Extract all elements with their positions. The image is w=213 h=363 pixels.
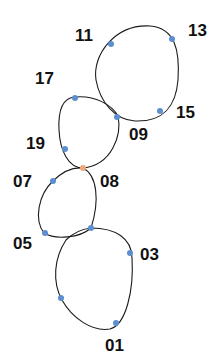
point-dot xyxy=(127,250,133,256)
point-dot xyxy=(113,320,119,326)
point-dot xyxy=(157,108,163,114)
point-dot xyxy=(42,230,48,236)
point-dot xyxy=(62,146,68,152)
point-label-01: 01 xyxy=(105,336,124,355)
point-dot xyxy=(169,36,175,42)
point-label-19: 19 xyxy=(26,134,45,153)
point-label-15: 15 xyxy=(176,103,195,122)
point-label-07: 07 xyxy=(13,172,32,191)
point-dot xyxy=(72,95,78,101)
point-label-11: 11 xyxy=(75,26,93,45)
point-label-05: 05 xyxy=(13,234,32,253)
loop-diagram: 1113150917190807050301 xyxy=(0,0,213,363)
point-label-17: 17 xyxy=(35,69,54,88)
loop-upper-middle xyxy=(59,97,119,168)
highlight-point-dot xyxy=(80,165,86,171)
point-dot xyxy=(108,41,114,47)
point-label-03: 03 xyxy=(140,245,159,264)
point-label-09: 09 xyxy=(129,125,148,144)
point-dot xyxy=(58,295,64,301)
point-label-08: 08 xyxy=(100,172,119,191)
point-dot xyxy=(88,225,94,231)
loop-lower-middle xyxy=(38,168,96,237)
point-label-13: 13 xyxy=(188,21,207,40)
point-dot xyxy=(114,114,120,120)
loop-top xyxy=(96,26,179,121)
point-dot xyxy=(50,178,56,184)
loop-bottom xyxy=(56,228,133,329)
